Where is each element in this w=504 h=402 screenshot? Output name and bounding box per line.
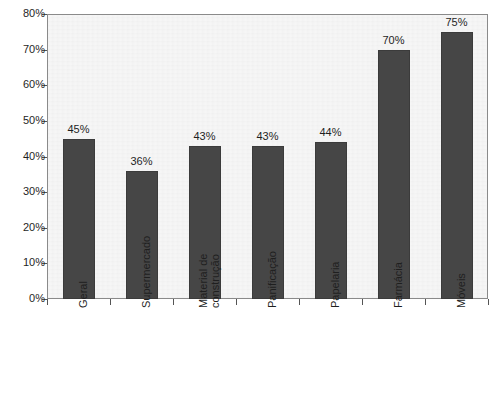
- bar: [441, 32, 473, 299]
- bar-value-label: 43%: [180, 131, 230, 142]
- x-axis-category-label: Móveis: [455, 273, 467, 308]
- y-axis-tick-label: 30%: [1, 186, 45, 197]
- x-axis-tick-mark: [47, 299, 48, 305]
- category-label-line: Geral: [77, 281, 89, 308]
- x-axis-tick-mark: [173, 299, 174, 305]
- x-axis-category-label: Papelaria: [329, 262, 341, 308]
- y-axis-tick-label: 20%: [1, 222, 45, 233]
- bar-value-label: 43%: [243, 131, 293, 142]
- y-axis-tick-label: 80%: [1, 8, 45, 19]
- bar: [63, 139, 95, 299]
- category-label-line: Móveis: [455, 273, 467, 308]
- y-axis-tick-label: 0%: [1, 293, 45, 304]
- category-label-line: Material de: [197, 254, 209, 308]
- y-axis-tick-label: 50%: [1, 115, 45, 126]
- x-axis-category-label: Geral: [77, 281, 89, 308]
- bar-value-label: 75%: [432, 17, 482, 28]
- x-axis-tick-mark: [488, 299, 489, 305]
- category-label-line: Panificação: [266, 251, 278, 308]
- bar-value-label: 44%: [306, 127, 356, 138]
- category-label-line: Papelaria: [329, 262, 341, 308]
- category-label-line: Farmácia: [392, 262, 404, 308]
- category-label-line: construção: [209, 254, 221, 308]
- y-axis-tick-label: 70%: [1, 44, 45, 55]
- x-axis-tick-mark: [299, 299, 300, 305]
- x-axis-category-label: Farmácia: [392, 262, 404, 308]
- y-axis-tick-label: 60%: [1, 79, 45, 90]
- bar-value-label: 45%: [54, 124, 104, 135]
- x-axis-tick-mark: [425, 299, 426, 305]
- bar-value-label: 70%: [369, 35, 419, 46]
- x-axis-category-label: Material deconstrução: [197, 254, 221, 308]
- y-axis-tick-label: 40%: [1, 151, 45, 162]
- y-axis-tick-label: 10%: [1, 257, 45, 268]
- category-label-line: Supermercado: [140, 236, 152, 308]
- bar-chart: 0%10%20%30%40%50%60%70%80% 45%36%43%43%4…: [0, 0, 504, 402]
- x-axis-category-label: Panificação: [266, 251, 278, 308]
- x-axis-tick-mark: [362, 299, 363, 305]
- x-axis-tick-mark: [236, 299, 237, 305]
- bar-value-label: 36%: [117, 156, 167, 167]
- x-axis-tick-mark: [110, 299, 111, 305]
- x-axis-category-label: Supermercado: [140, 236, 152, 308]
